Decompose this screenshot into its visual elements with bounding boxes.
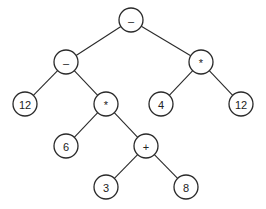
- tree-edge: [141, 26, 190, 56]
- node-label: 6: [63, 141, 69, 153]
- node-label: +: [143, 141, 149, 153]
- node-label: –: [63, 57, 70, 69]
- nodes-layer: ––*12*4126+38: [13, 8, 253, 199]
- tree-node: 4: [149, 92, 173, 116]
- tree-node: *: [189, 50, 213, 74]
- tree-node: 6: [54, 134, 78, 158]
- node-label: 4: [158, 99, 164, 111]
- tree-node: –: [119, 8, 143, 32]
- tree-node: 12: [229, 92, 253, 116]
- node-label: *: [199, 57, 204, 69]
- expression-tree-diagram: ––*12*4126+38: [0, 0, 266, 209]
- tree-edge: [74, 71, 97, 96]
- tree-edge: [114, 155, 137, 179]
- tree-node: 12: [13, 92, 37, 116]
- tree-edge: [154, 155, 177, 179]
- tree-node: 3: [94, 175, 118, 199]
- node-label: 3: [103, 182, 109, 194]
- node-label: 12: [19, 99, 31, 111]
- tree-node: +: [134, 134, 158, 158]
- tree-edge: [76, 27, 121, 56]
- tree-node: –: [54, 50, 78, 74]
- tree-node: 8: [174, 175, 198, 199]
- tree-edge: [169, 71, 192, 96]
- tree-edge: [114, 113, 137, 138]
- tree-node: *: [94, 92, 118, 116]
- tree-edge: [33, 71, 57, 96]
- tree-edge: [74, 113, 97, 138]
- node-label: –: [128, 15, 135, 27]
- node-label: 12: [235, 99, 247, 111]
- node-label: *: [104, 99, 109, 111]
- node-label: 8: [183, 182, 189, 194]
- tree-edge: [209, 71, 232, 96]
